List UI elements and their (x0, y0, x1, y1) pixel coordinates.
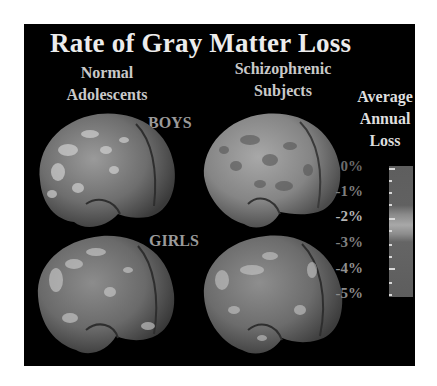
legend-tick (389, 192, 392, 194)
legend-tick (389, 244, 392, 246)
legend-label-3: -3% (336, 234, 364, 251)
legend-tick (389, 204, 392, 206)
figure-panel: Rate of Gray Matter Loss Normal Adolesce… (24, 24, 415, 366)
figure-title: Rate of Gray Matter Loss (50, 28, 351, 59)
brain-image-boys-schizophrenic (200, 110, 342, 234)
legend-label-5: -5% (336, 285, 364, 302)
legend-tick (389, 282, 392, 284)
column-label-line1: Normal (42, 62, 172, 84)
legend-title: Average Annual Loss (354, 86, 415, 152)
legend-tick (389, 180, 392, 182)
column-label-schizophrenic: Schizophrenic Subjects (208, 58, 358, 102)
legend-title-line2: Annual (354, 108, 415, 130)
legend-label-4: -4% (336, 260, 364, 277)
legend-label-1: -1% (336, 183, 364, 200)
column-label-line2: Adolescents (42, 84, 172, 106)
brain-image-boys-normal (28, 110, 178, 234)
column-label-line1: Schizophrenic (208, 58, 358, 80)
legend-tick (389, 230, 392, 232)
brain-image-girls-normal (30, 230, 180, 360)
legend-label-2: -2% (336, 208, 364, 225)
column-label-normal: Normal Adolescents (42, 62, 172, 106)
legend-title-line1: Average (354, 86, 415, 108)
legend-label-0: 0% (341, 158, 364, 175)
legend-title-line3: Loss (354, 130, 415, 152)
legend-tick (389, 294, 392, 296)
column-label-line2: Subjects (208, 80, 358, 102)
legend-tick (389, 256, 392, 258)
brain-image-girls-schizophrenic (200, 230, 346, 360)
legend-tick (389, 218, 395, 220)
legend-tick (389, 168, 395, 170)
legend-tick (389, 268, 395, 270)
legend-color-bar (389, 166, 413, 297)
